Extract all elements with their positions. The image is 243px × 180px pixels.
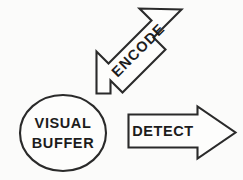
diagram-canvas: ENCODE DETECT VISUAL BUFFER: [0, 0, 243, 180]
encode-arrow-group[interactable]: ENCODE: [97, 9, 182, 94]
detect-arrow-label: DETECT: [132, 123, 194, 139]
diagram-svg: ENCODE DETECT VISUAL BUFFER: [0, 0, 243, 180]
visual-buffer-label-line2: BUFFER: [32, 135, 94, 151]
visual-buffer-label-line1: VISUAL: [35, 115, 92, 131]
visual-buffer-node-group[interactable]: VISUAL BUFFER: [20, 95, 106, 171]
detect-arrow-group[interactable]: DETECT: [129, 107, 236, 159]
visual-buffer-ellipse[interactable]: [20, 95, 106, 171]
